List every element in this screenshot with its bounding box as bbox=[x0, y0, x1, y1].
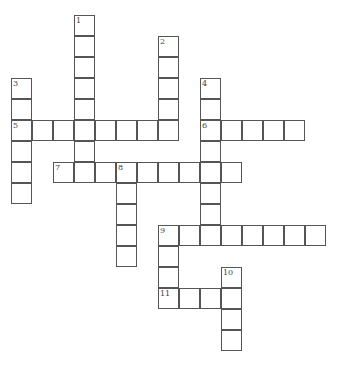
crossword-cell[interactable] bbox=[74, 120, 95, 141]
crossword-cell[interactable] bbox=[305, 225, 326, 246]
crossword-cell[interactable] bbox=[74, 78, 95, 99]
crossword-cell[interactable]: 4 bbox=[200, 78, 221, 99]
crossword-cell[interactable] bbox=[179, 288, 200, 309]
crossword-cell[interactable] bbox=[158, 78, 179, 99]
crossword-cell[interactable] bbox=[263, 225, 284, 246]
crossword-cell[interactable] bbox=[74, 99, 95, 120]
crossword-cell[interactable] bbox=[11, 162, 32, 183]
crossword-cell[interactable] bbox=[221, 162, 242, 183]
crossword-cell[interactable] bbox=[179, 225, 200, 246]
clue-number: 2 bbox=[160, 37, 165, 46]
crossword-cell[interactable] bbox=[284, 120, 305, 141]
clue-number: 11 bbox=[160, 289, 170, 298]
crossword-cell[interactable]: 10 bbox=[221, 267, 242, 288]
crossword-cell[interactable] bbox=[221, 288, 242, 309]
clue-number: 6 bbox=[202, 121, 207, 130]
crossword-cell[interactable] bbox=[284, 225, 305, 246]
clue-number: 10 bbox=[223, 268, 233, 277]
crossword-cell[interactable] bbox=[74, 141, 95, 162]
crossword-cell[interactable] bbox=[200, 99, 221, 120]
crossword-cell[interactable] bbox=[158, 57, 179, 78]
clue-number: 5 bbox=[13, 121, 18, 130]
clue-number: 8 bbox=[118, 163, 123, 172]
crossword-cell[interactable] bbox=[242, 120, 263, 141]
crossword-cell[interactable] bbox=[95, 120, 116, 141]
crossword-grid: 1235467891110 bbox=[0, 0, 339, 377]
clue-number: 3 bbox=[13, 79, 18, 88]
crossword-cell[interactable] bbox=[74, 36, 95, 57]
crossword-cell[interactable] bbox=[11, 183, 32, 204]
crossword-cell[interactable] bbox=[74, 57, 95, 78]
crossword-cell[interactable] bbox=[116, 120, 137, 141]
crossword-cell[interactable]: 2 bbox=[158, 36, 179, 57]
clue-number: 9 bbox=[160, 226, 165, 235]
crossword-cell[interactable] bbox=[221, 309, 242, 330]
crossword-cell[interactable] bbox=[263, 120, 284, 141]
crossword-cell[interactable]: 8 bbox=[116, 162, 137, 183]
crossword-cell[interactable] bbox=[200, 162, 221, 183]
crossword-cell[interactable]: 3 bbox=[11, 78, 32, 99]
crossword-cell[interactable] bbox=[242, 225, 263, 246]
crossword-cell[interactable] bbox=[53, 120, 74, 141]
crossword-cell[interactable] bbox=[200, 288, 221, 309]
crossword-cell[interactable]: 6 bbox=[200, 120, 221, 141]
crossword-cell[interactable] bbox=[116, 225, 137, 246]
crossword-cell[interactable] bbox=[137, 120, 158, 141]
crossword-cell[interactable] bbox=[221, 225, 242, 246]
crossword-cell[interactable] bbox=[200, 225, 221, 246]
clue-number: 7 bbox=[55, 163, 60, 172]
crossword-cell[interactable]: 7 bbox=[53, 162, 74, 183]
crossword-cell[interactable] bbox=[11, 99, 32, 120]
crossword-cell[interactable] bbox=[200, 204, 221, 225]
crossword-cell[interactable] bbox=[116, 183, 137, 204]
crossword-cell[interactable] bbox=[221, 330, 242, 351]
clue-number: 4 bbox=[202, 79, 207, 88]
crossword-cell[interactable] bbox=[158, 162, 179, 183]
crossword-cell[interactable]: 1 bbox=[74, 15, 95, 36]
crossword-cell[interactable] bbox=[221, 120, 242, 141]
crossword-cell[interactable] bbox=[158, 99, 179, 120]
crossword-cell[interactable] bbox=[158, 120, 179, 141]
crossword-cell[interactable]: 9 bbox=[158, 225, 179, 246]
crossword-cell[interactable] bbox=[158, 246, 179, 267]
crossword-cell[interactable] bbox=[137, 162, 158, 183]
clue-number: 1 bbox=[76, 16, 81, 25]
crossword-cell[interactable] bbox=[158, 267, 179, 288]
crossword-cell[interactable] bbox=[200, 141, 221, 162]
crossword-cell[interactable] bbox=[32, 120, 53, 141]
crossword-cell[interactable] bbox=[179, 162, 200, 183]
crossword-cell[interactable] bbox=[116, 204, 137, 225]
crossword-cell[interactable]: 5 bbox=[11, 120, 32, 141]
crossword-cell[interactable] bbox=[116, 246, 137, 267]
crossword-cell[interactable] bbox=[95, 162, 116, 183]
crossword-cell[interactable] bbox=[200, 183, 221, 204]
crossword-cell[interactable]: 11 bbox=[158, 288, 179, 309]
crossword-cell[interactable] bbox=[74, 162, 95, 183]
crossword-cell[interactable] bbox=[11, 141, 32, 162]
